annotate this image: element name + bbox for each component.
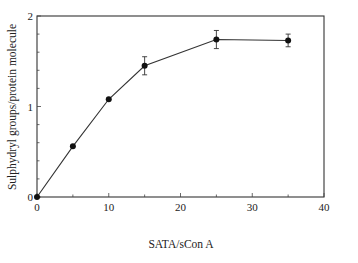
x-tick-label: 30 <box>247 201 259 213</box>
plot-frame <box>37 16 324 197</box>
plot-border <box>37 16 324 197</box>
y-tick-label: 1 <box>28 101 34 113</box>
y-tick-label: 2 <box>28 10 34 22</box>
data-point <box>285 37 291 43</box>
data-point <box>70 143 76 149</box>
data-series <box>34 30 291 200</box>
data-point <box>213 37 219 43</box>
x-tick-label: 10 <box>103 201 115 213</box>
x-tick-label: 40 <box>319 201 331 213</box>
series-line <box>37 40 288 197</box>
chart: 010203040012 SATA/sCon A Sulphydryl grou… <box>0 0 358 263</box>
axis-ticks <box>37 16 324 197</box>
x-tick-label: 20 <box>175 201 187 213</box>
y-tick-label: 0 <box>28 191 34 203</box>
x-tick-label: 0 <box>34 201 40 213</box>
x-axis-label: SATA/sCon A <box>148 238 214 250</box>
data-point <box>34 194 40 200</box>
data-point <box>106 96 112 102</box>
y-axis-label: Sulphydryl groups/protein molecule <box>6 24 19 190</box>
data-point <box>142 63 148 69</box>
